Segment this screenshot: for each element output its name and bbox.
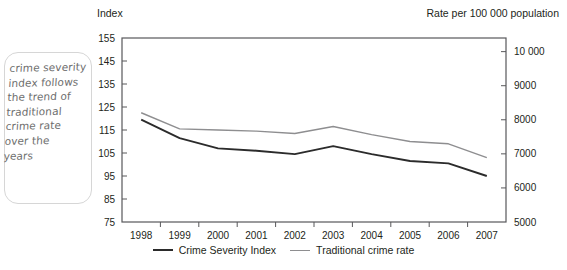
right-axis-tick-label: 5000 — [514, 217, 537, 228]
left-axis-ticks: 758595105115125135145155 — [98, 33, 127, 228]
line-chart: 758595105115125135145155 500060007000800… — [0, 0, 567, 270]
x-axis-tick-label: 1999 — [168, 230, 191, 241]
x-axis-tick-label: 2004 — [360, 230, 383, 241]
right-axis-ticks: 5000600070008000900010 000 — [501, 46, 545, 227]
x-axis-tick-label: 2007 — [476, 230, 499, 241]
left-axis-tick-label: 85 — [104, 194, 116, 205]
right-axis-tick-label: 8000 — [514, 114, 537, 125]
x-axis-ticks: 1998199920002001200220032004200520062007 — [130, 222, 498, 241]
data-series-group — [141, 113, 487, 176]
left-axis-tick-label: 105 — [98, 148, 115, 159]
right-axis-tick-label: 6000 — [514, 182, 537, 193]
x-axis-tick-label: 2005 — [399, 230, 422, 241]
chart-legend: Crime Severity Index Traditional crime r… — [0, 244, 567, 256]
left-axis-tick-label: 155 — [98, 33, 115, 44]
legend-label-crime-severity-index: Crime Severity Index — [179, 244, 276, 256]
chart-svg: 758595105115125135145155 500060007000800… — [0, 0, 567, 270]
legend-item-crime-severity-index: Crime Severity Index — [153, 244, 276, 256]
x-axis-tick-label: 1998 — [130, 230, 153, 241]
x-axis-tick-label: 2002 — [284, 230, 307, 241]
right-axis-tick-label: 10 000 — [514, 46, 545, 57]
legend-line-swatch-icon — [290, 250, 310, 251]
right-axis-tick-label: 9000 — [514, 80, 537, 91]
x-axis-tick-label: 2001 — [245, 230, 268, 241]
left-axis-tick-label: 125 — [98, 102, 115, 113]
left-axis-tick-label: 145 — [98, 56, 115, 67]
x-axis-tick-label: 2000 — [207, 230, 230, 241]
legend-label-traditional-crime-rate: Traditional crime rate — [316, 244, 414, 256]
x-axis-tick-label: 2003 — [322, 230, 345, 241]
left-axis-tick-label: 95 — [104, 171, 116, 182]
series-line-crime-severity-index — [141, 120, 487, 176]
x-axis-tick-label: 2006 — [437, 230, 460, 241]
left-axis-tick-label: 115 — [99, 125, 115, 136]
left-axis-tick-label: 135 — [98, 79, 115, 90]
legend-line-swatch-icon — [153, 249, 173, 251]
legend-item-traditional-crime-rate: Traditional crime rate — [290, 244, 414, 256]
left-axis-tick-label: 75 — [104, 217, 116, 228]
right-axis-tick-label: 7000 — [514, 148, 537, 159]
